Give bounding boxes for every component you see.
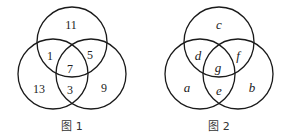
figure-2-region-left-right: e — [216, 83, 222, 98]
figure-2-region-left-top: d — [195, 48, 202, 63]
figure-1-region-top-only: 11 — [65, 18, 77, 32]
figure-2-caption: 图 2 — [208, 120, 230, 133]
figure-2-region-right-only: b — [249, 80, 256, 95]
figure-1-region-left-right: 3 — [67, 83, 73, 97]
figure-1: 11 1 5 7 13 3 9 图 1 — [18, 7, 126, 133]
figure-1-region-all-three: 7 — [67, 62, 73, 76]
figure-1-caption: 图 1 — [61, 120, 83, 133]
venn-diagrams: 11 1 5 7 13 3 9 图 1 c d f g a e b 图 2 — [0, 0, 290, 139]
figure-2-region-right-top: f — [236, 48, 242, 63]
figure-2-region-left-only: a — [184, 80, 191, 95]
figure-1-region-left-top: 1 — [47, 49, 53, 63]
figure-2-region-all-three: g — [215, 60, 222, 75]
figure-1-region-right-top: 5 — [87, 48, 93, 62]
figure-2-region-top-only: c — [216, 17, 222, 32]
figure-1-region-left-only: 13 — [33, 82, 45, 96]
figure-1-region-right-only: 9 — [101, 81, 107, 95]
figure-2: c d f g a e b 图 2 — [165, 7, 273, 133]
figure-1-left-circle — [18, 39, 88, 109]
